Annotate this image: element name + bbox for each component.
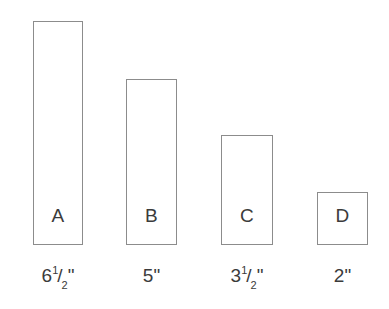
bar-caption-c: 31/2" <box>221 266 273 289</box>
caption-numerator-c: 1 <box>241 264 247 276</box>
bar-rect-d[interactable]: D <box>317 192 368 245</box>
caption-whole-b: 5 <box>143 265 154 286</box>
bar-caption-b: 5" <box>126 266 177 289</box>
caption-numerator-a: 1 <box>52 264 58 276</box>
bar-letter-d: D <box>318 206 367 225</box>
caption-whole-d: 2 <box>334 265 345 286</box>
bar-comparison-figure: A 61/2" B 5" C 31/2" D 2" <box>0 0 389 309</box>
caption-whole-c: 3 <box>231 265 242 286</box>
bar-rect-b[interactable]: B <box>126 79 177 245</box>
bar-rect-c[interactable]: C <box>221 135 273 245</box>
bar-caption-a: 61/2" <box>33 266 83 289</box>
bar-rect-a[interactable]: A <box>33 21 83 245</box>
caption-inch-mark-b: " <box>153 265 160 286</box>
bar-caption-d: 2" <box>317 266 368 289</box>
bar-letter-a: A <box>34 206 82 225</box>
caption-whole-a: 6 <box>42 265 53 286</box>
caption-fraction-c: 1/2 <box>241 266 257 289</box>
caption-inch-mark-d: " <box>344 265 351 286</box>
caption-inch-mark-a: " <box>68 265 75 286</box>
caption-denominator-a: 2 <box>62 279 68 291</box>
caption-denominator-c: 2 <box>251 279 257 291</box>
caption-fraction-a: 1/2 <box>52 266 68 289</box>
caption-inch-mark-c: " <box>257 265 264 286</box>
bar-letter-b: B <box>127 206 176 225</box>
bar-letter-c: C <box>222 206 272 225</box>
